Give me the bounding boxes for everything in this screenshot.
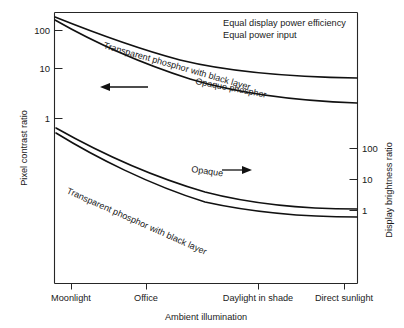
- right-tick-label-100: 100: [362, 143, 378, 154]
- bottom-axis-ticks: [72, 284, 345, 290]
- bottom-tick-label-direct-sunlight: Direct sunlight: [315, 293, 374, 303]
- curve-opaque-phosphor-contrast: [55, 20, 357, 103]
- left-axis-arrow-icon: [100, 83, 148, 91]
- left-tick-label-100: 100: [34, 25, 50, 36]
- left-axis-title: Pixel contrast ratio: [19, 110, 29, 186]
- curve-label-lower-opaque: Opaque: [191, 164, 224, 178]
- annotation-line-2: Equal power input: [223, 30, 297, 40]
- annotation-line-1: Equal display power efficiency: [223, 18, 346, 28]
- right-axis-ticks: [350, 149, 358, 211]
- left-tick-label-10: 10: [39, 63, 50, 74]
- left-axis-ticks: [55, 31, 63, 119]
- bottom-tick-label-daylight-in-shade: Daylight in shade: [223, 293, 293, 303]
- chart-svg: 100 10 1 100 10 1 Moonlight Office Dayli…: [0, 0, 404, 328]
- right-axis-arrow-icon: [222, 166, 252, 174]
- bottom-tick-label-moonlight: Moonlight: [51, 293, 91, 303]
- right-tick-label-1: 1: [362, 205, 367, 216]
- left-tick-label-1: 1: [45, 113, 50, 124]
- bottom-axis-title: Ambient illumination: [165, 312, 247, 322]
- bottom-tick-label-office: Office: [134, 293, 158, 303]
- plot-frame: [55, 13, 358, 284]
- chart-figure: 100 10 1 100 10 1 Moonlight Office Dayli…: [0, 0, 404, 328]
- right-axis-title: Display brightness ratio: [384, 142, 394, 238]
- right-tick-label-10: 10: [362, 174, 373, 185]
